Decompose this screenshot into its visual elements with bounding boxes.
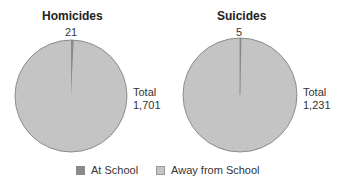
legend-item-at-school: At School xyxy=(76,164,138,176)
legend: At School Away from School xyxy=(76,164,278,176)
at-school-swatch-icon xyxy=(76,166,85,175)
homicides-pie xyxy=(15,40,127,152)
pie-charts xyxy=(0,0,344,189)
suicides-pie xyxy=(183,38,297,152)
legend-label: Away from School xyxy=(171,164,259,176)
away-swatch-icon xyxy=(156,166,165,175)
legend-label: At School xyxy=(91,164,138,176)
legend-item-away: Away from School xyxy=(156,164,259,176)
